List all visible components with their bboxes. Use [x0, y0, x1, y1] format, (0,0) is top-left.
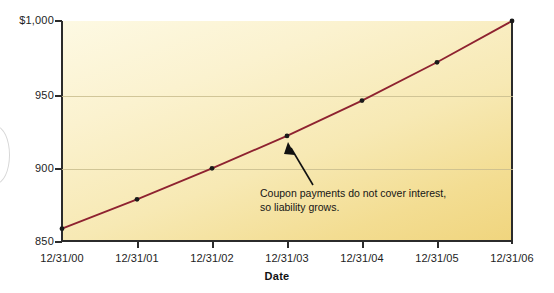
annotation-line-2: so liability grows.: [260, 200, 446, 214]
annotation-line-1: Coupon payments do not cover interest,: [260, 186, 446, 200]
chart-overlay: [0, 0, 554, 293]
chart-annotation: Coupon payments do not cover interest, s…: [260, 186, 446, 214]
data-point-12/31/00: [60, 226, 65, 231]
data-point-12/31/03: [285, 134, 290, 139]
annotation-arrow-head: [284, 142, 295, 155]
chart-figure: $1,000 950 900 850 12/31/00 12/31/01 12/…: [0, 0, 554, 293]
data-point-12/31/02: [210, 166, 215, 171]
annotation-arrow-line: [291, 148, 313, 185]
data-point-12/31/04: [360, 98, 365, 103]
data-point-12/31/06: [510, 19, 515, 24]
data-point-12/31/05: [435, 60, 440, 65]
data-point-12/31/01: [135, 197, 140, 202]
